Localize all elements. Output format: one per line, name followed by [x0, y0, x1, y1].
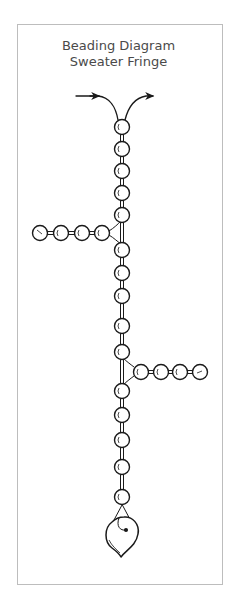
bead	[54, 226, 69, 241]
beading-diagram	[0, 0, 237, 606]
bead	[115, 208, 130, 223]
thread-in-arrow-icon	[76, 96, 118, 120]
bead	[115, 289, 130, 304]
bead	[115, 266, 130, 281]
bead	[115, 345, 130, 360]
bead	[115, 433, 130, 448]
bead	[134, 365, 149, 380]
bead	[154, 365, 169, 380]
bead	[115, 319, 130, 334]
bead	[115, 460, 130, 475]
main-stem-beads	[115, 120, 130, 505]
right-branch-beads	[134, 365, 208, 380]
leaf-pendant-icon	[106, 517, 138, 557]
bead	[95, 226, 110, 241]
bead	[115, 164, 130, 179]
bead	[115, 408, 130, 423]
bead	[115, 120, 130, 135]
bead	[115, 243, 130, 258]
bead	[115, 384, 130, 399]
bead	[115, 490, 130, 505]
bead	[173, 365, 188, 380]
bead	[115, 186, 130, 201]
bead	[33, 226, 48, 241]
bead	[75, 226, 90, 241]
bead	[115, 142, 130, 157]
thread-out-arrow-icon	[125, 96, 153, 120]
